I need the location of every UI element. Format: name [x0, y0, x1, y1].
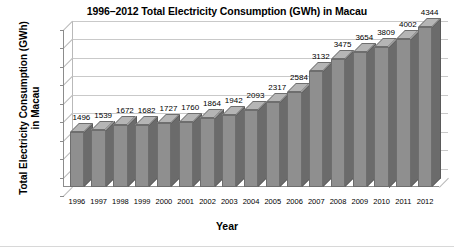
y-axis-title: Total Electricity Consumption (GWh) in M…: [18, 18, 42, 198]
depth-connector: [63, 187, 73, 197]
bar[interactable]: [157, 123, 171, 187]
bar[interactable]: [91, 130, 105, 187]
bar-front-face: [331, 59, 345, 187]
bar-front-face: [374, 47, 388, 188]
y-axis-title-line1: Total Electricity Consumption (GWh): [18, 21, 29, 195]
bar[interactable]: [179, 122, 193, 187]
bar-front-face: [418, 27, 432, 187]
y-tick-mark: [60, 196, 64, 197]
bar-front-face: [287, 92, 301, 187]
bar-front-face: [91, 130, 105, 187]
bar-front-face: [222, 115, 236, 187]
plot-area: 050010001500200025003000350040004500 149…: [63, 21, 448, 196]
chart-title: 1996–2012 Total Electricity Consumption …: [0, 5, 454, 17]
bar-front-face: [200, 118, 214, 187]
bar[interactable]: [418, 27, 432, 187]
bar[interactable]: [222, 115, 236, 187]
bar[interactable]: [70, 132, 84, 187]
bar-front-face: [244, 110, 258, 187]
x-axis-title: Year: [0, 220, 454, 232]
bar-front-face: [113, 125, 127, 187]
bar-front-face: [70, 132, 84, 187]
bar[interactable]: [331, 59, 345, 187]
bar-front-face: [353, 52, 367, 187]
bar-side-face: [432, 18, 441, 187]
bar-front-face: [135, 125, 149, 187]
bar[interactable]: [200, 118, 214, 187]
bar[interactable]: [309, 71, 323, 187]
bar-value-label: 4344: [410, 9, 450, 17]
bar[interactable]: [396, 39, 410, 187]
chart-container: 1996–2012 Total Electricity Consumption …: [0, 0, 454, 247]
bar[interactable]: [113, 125, 127, 187]
bar-front-face: [157, 123, 171, 187]
bar-front-face: [179, 122, 193, 187]
bar-series: 1496153916721682172717601864194220932317…: [63, 21, 448, 187]
bar[interactable]: [374, 47, 388, 188]
bar-front-face: [309, 71, 323, 187]
bar-front-face: [396, 39, 410, 187]
x-tick-label: 2012: [405, 198, 445, 206]
y-axis-title-line2: in Macau: [30, 87, 41, 130]
bar[interactable]: [244, 110, 258, 187]
bar-front-face: [266, 102, 280, 187]
bar[interactable]: [353, 52, 367, 187]
bar[interactable]: [266, 102, 280, 187]
bar[interactable]: [135, 125, 149, 187]
bar[interactable]: [287, 92, 301, 187]
